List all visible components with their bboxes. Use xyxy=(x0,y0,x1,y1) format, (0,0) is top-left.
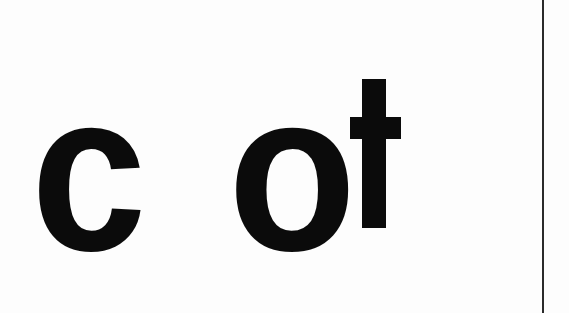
vertical-divider-line xyxy=(542,0,544,313)
letter-c: c xyxy=(31,59,147,285)
letter-o: o xyxy=(228,59,356,285)
letter-t-char: t xyxy=(350,79,351,80)
letter-t-crossbar xyxy=(350,117,401,139)
word-fragment-text: c ot xyxy=(0,0,1,1)
letter-t: t xyxy=(350,79,401,228)
scanned-word-image: c ot c o t xyxy=(0,0,569,313)
letter-t-stem xyxy=(362,79,386,228)
